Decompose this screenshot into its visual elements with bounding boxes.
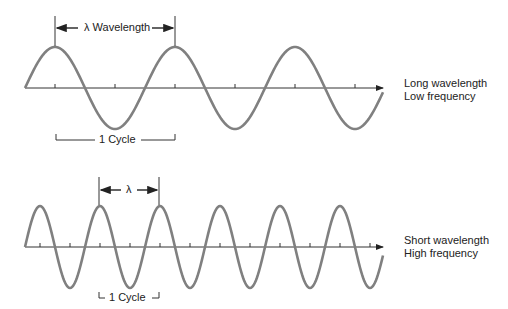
bottom-desc-line1: Short wavelength [404,234,489,247]
bottom-wave-group [25,177,383,298]
top-wave-group [25,16,383,140]
top-desc-line2: Low frequency [404,90,476,103]
bottom-desc-line2: High frequency [404,247,478,260]
top-desc-line1: Long wavelength [404,77,487,90]
bottom-cycle-bracket-right [152,292,159,298]
wave-diagram [0,0,508,309]
bottom-cycle-bracket-left [99,292,105,298]
bottom-cycle-label: 1 Cycle [109,291,146,304]
top-cycle-bracket-right [141,134,175,140]
bottom-wavelength-label: λ [126,183,132,196]
top-cycle-label: 1 Cycle [99,133,136,146]
top-wavelength-label: λ Wavelength [84,21,150,34]
top-cycle-bracket-left [56,134,95,140]
